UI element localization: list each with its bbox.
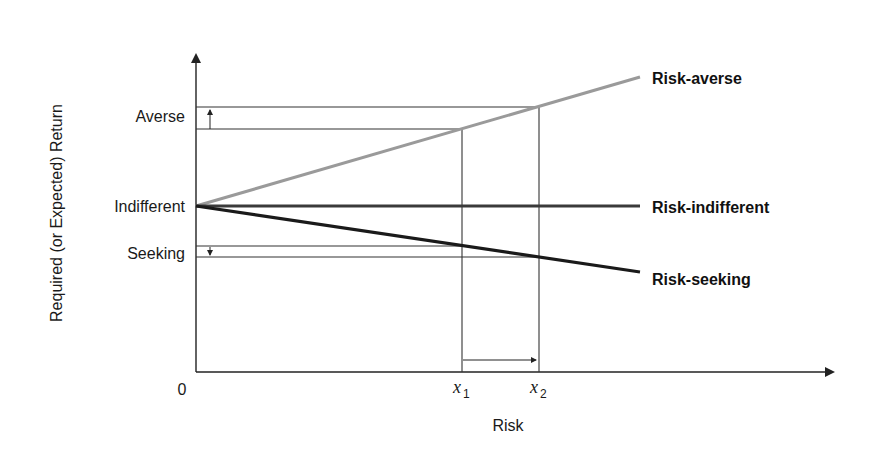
y-axis-label: Required (or Expected) Return [48,104,65,322]
svg-text:x: x [452,377,461,397]
seeking-guides [196,246,539,257]
origin-label: 0 [178,381,187,398]
risk-seeking-line [196,206,640,272]
label-risk-seeking: Risk-seeking [652,271,751,288]
x-tick-x2: x 2 [529,377,547,401]
risk-preference-diagram: Averse Indifferent Seeking Required (or … [0,0,880,459]
preference-lines [196,77,640,272]
y-tick-averse: Averse [135,108,185,125]
y-tick-seeking: Seeking [127,245,185,262]
label-risk-averse: Risk-averse [652,70,742,87]
label-risk-indifferent: Risk-indifferent [652,199,770,216]
svg-text:2: 2 [540,387,547,401]
risk-averse-line [196,77,640,206]
y-tick-indifferent: Indifferent [114,198,185,215]
risk-guides [462,107,539,372]
svg-text:x: x [529,377,538,397]
x-axis-label: Risk [492,417,524,434]
x-tick-x1: x 1 [452,377,470,401]
averse-guides [196,107,539,129]
svg-text:1: 1 [463,387,470,401]
